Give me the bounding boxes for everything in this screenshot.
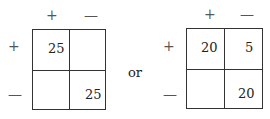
col-header-minus: — xyxy=(240,8,254,21)
grid: 25 25 xyxy=(32,29,106,110)
col-header-plus: + xyxy=(46,9,58,22)
grid-divider-horizontal xyxy=(33,70,105,71)
cell-plus-plus: 20 xyxy=(201,41,218,54)
col-header-plus: + xyxy=(204,8,216,21)
row-header-minus: — xyxy=(8,88,22,101)
row-header-plus: + xyxy=(163,40,175,53)
connector-text: or xyxy=(128,66,142,79)
cell-minus-minus: 25 xyxy=(85,88,102,101)
cell-plus-minus: 5 xyxy=(245,41,253,54)
cell-minus-minus: 20 xyxy=(238,87,255,100)
grid: 20 5 20 xyxy=(186,28,263,109)
col-header-minus: — xyxy=(84,9,98,22)
row-header-minus: — xyxy=(163,88,177,101)
grid-divider-horizontal xyxy=(187,69,262,70)
row-header-plus: + xyxy=(8,40,20,53)
cell-plus-plus: 25 xyxy=(48,42,65,55)
